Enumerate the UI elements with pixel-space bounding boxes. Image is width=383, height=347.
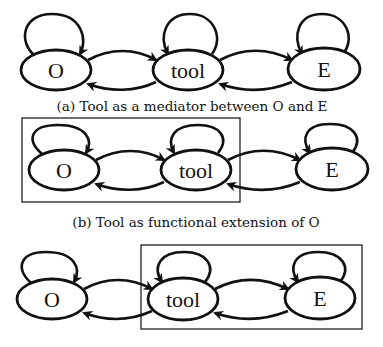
edge-tool-to-o xyxy=(96,182,164,190)
node-tool-label: tool xyxy=(179,158,213,183)
edge-tool-to-e xyxy=(215,280,288,289)
edge-o-to-tool xyxy=(88,51,156,60)
caption-b: (b) Tool as functional extension of O xyxy=(72,214,319,230)
edge-e-to-tool xyxy=(228,182,300,190)
node-e-label: E xyxy=(317,57,330,82)
state-diagram-figure: O tool E (a) Tool as a mediator between … xyxy=(0,0,383,347)
edge-tool-to-o xyxy=(88,82,156,90)
edge-o-to-tool xyxy=(96,151,164,160)
node-e-label: E xyxy=(313,286,326,311)
edge-e-to-tool xyxy=(220,82,292,90)
panel-c: O tool E xyxy=(17,245,362,329)
node-tool-label: tool xyxy=(166,287,200,312)
edge-o-to-tool xyxy=(84,280,152,289)
node-tool-label: tool xyxy=(171,58,205,83)
node-o-label: O xyxy=(56,158,72,183)
node-e-label: E xyxy=(325,157,338,182)
node-o-label: O xyxy=(48,58,64,83)
panel-a: O tool E (a) Tool as a mediator between … xyxy=(21,14,360,114)
edge-tool-to-e xyxy=(228,151,300,160)
node-o-label: O xyxy=(44,287,60,312)
caption-a: (a) Tool as a mediator between O and E xyxy=(57,98,328,114)
panel-b: O tool E (b) Tool as functional extensio… xyxy=(22,118,368,230)
edge-tool-to-o xyxy=(84,311,152,319)
edge-e-to-tool xyxy=(215,311,288,319)
self-loop-tool xyxy=(164,14,217,54)
edge-tool-to-e xyxy=(220,51,292,60)
